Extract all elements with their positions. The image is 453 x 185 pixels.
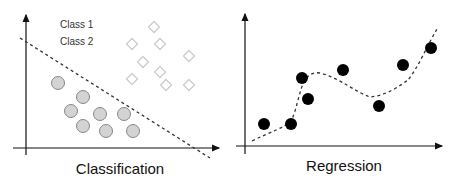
- regression-panel: Regression: [236, 14, 442, 174]
- class-2-point: [155, 39, 166, 50]
- regression-point: [337, 64, 349, 76]
- regression-point: [258, 118, 270, 130]
- classification-panel: Class 1 Class 2 Classification: [13, 15, 219, 177]
- class-1-point: [118, 108, 131, 121]
- class-1-point: [77, 91, 90, 104]
- diagram-canvas: Class 1 Class 2 Classification Regressio…: [0, 0, 453, 185]
- class-1-point: [65, 105, 78, 118]
- class-2-point: [127, 39, 138, 50]
- regression-caption: Regression: [306, 157, 382, 174]
- class-1-point: [127, 125, 140, 138]
- class-2-point: [127, 74, 138, 85]
- regression-point: [397, 59, 409, 71]
- class-2-point: [184, 51, 195, 62]
- class-2-point: [184, 80, 195, 91]
- regression-point: [285, 118, 297, 130]
- class-1-point: [94, 108, 107, 121]
- regression-points: [258, 42, 437, 130]
- regression-point: [373, 100, 385, 112]
- decision-boundary: [20, 38, 210, 158]
- class-2-points: [127, 22, 195, 91]
- class-1-points: [52, 77, 140, 138]
- class-2-point: [138, 57, 149, 68]
- regression-point: [425, 42, 437, 54]
- class-1-point: [100, 125, 113, 138]
- class-1-point: [52, 77, 65, 90]
- regression-point: [296, 72, 308, 84]
- regression-fit-curve: [252, 29, 437, 141]
- legend-class-1: Class 1: [60, 19, 94, 30]
- class-2-point: [149, 22, 160, 33]
- legend-class-2: Class 2: [60, 36, 94, 47]
- regression-point: [302, 93, 314, 105]
- class-2-point: [161, 80, 172, 91]
- class-1-point: [77, 120, 90, 133]
- classification-caption: Classification: [76, 160, 164, 177]
- class-2-point: [155, 67, 166, 78]
